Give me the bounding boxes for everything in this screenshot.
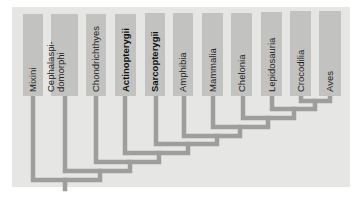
taxon-label: Crocodilia	[296, 50, 306, 92]
taxon-cephalaspidomorphi: Cephalaspi- domorphi	[51, 14, 78, 96]
taxon-aves: Aves	[319, 11, 341, 96]
taxon-label: Mixini	[28, 68, 38, 92]
taxon-chondrichthyes: Chondrichthyes	[86, 14, 106, 96]
taxon-label: Chondrichthyes	[91, 26, 101, 92]
taxon-label: Mammalia	[208, 48, 218, 92]
taxon-label-line1: Cephalaspi-	[45, 41, 56, 92]
taxon-crocodilia: Crocodilia	[290, 11, 311, 96]
taxon-lepidosauria: Lepidosauria	[261, 12, 282, 96]
taxon-actinopterygii: Actinopterygii	[115, 14, 136, 96]
taxon-mammalia: Mammalia	[202, 13, 223, 96]
taxon-label: Aves	[325, 71, 335, 92]
taxon-mixini: Mixini	[23, 14, 43, 96]
taxon-amphibia: Amphibia	[173, 13, 193, 96]
taxon-chelonia: Chelonia	[231, 13, 252, 96]
taxon-label: Chelonia	[237, 55, 247, 93]
taxon-label: Amphibia	[178, 52, 188, 92]
taxon-label: Cephalaspi- domorphi	[46, 41, 66, 92]
taxon-label-line2: domorphi	[55, 52, 66, 92]
branch-mammalia	[213, 96, 268, 127]
taxon-label: Lepidosauria	[267, 38, 277, 92]
taxon-label: Sarcopterygii	[150, 31, 160, 92]
taxon-label: Actinopterygii	[121, 28, 131, 92]
taxon-sarcopterygii: Sarcopterygii	[145, 13, 165, 96]
